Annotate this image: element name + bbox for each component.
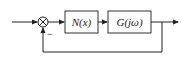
block-diagram: − N(x) G(jω) xyxy=(0,0,187,61)
block-nonlinear: N(x) xyxy=(65,11,98,33)
block-plant: G(jω) xyxy=(108,11,151,33)
feedback-minus-sign: − xyxy=(47,29,52,39)
block-plant-label: G(jω) xyxy=(116,16,142,29)
block-nonlinear-label: N(x) xyxy=(71,16,92,29)
summing-junction xyxy=(38,17,48,27)
